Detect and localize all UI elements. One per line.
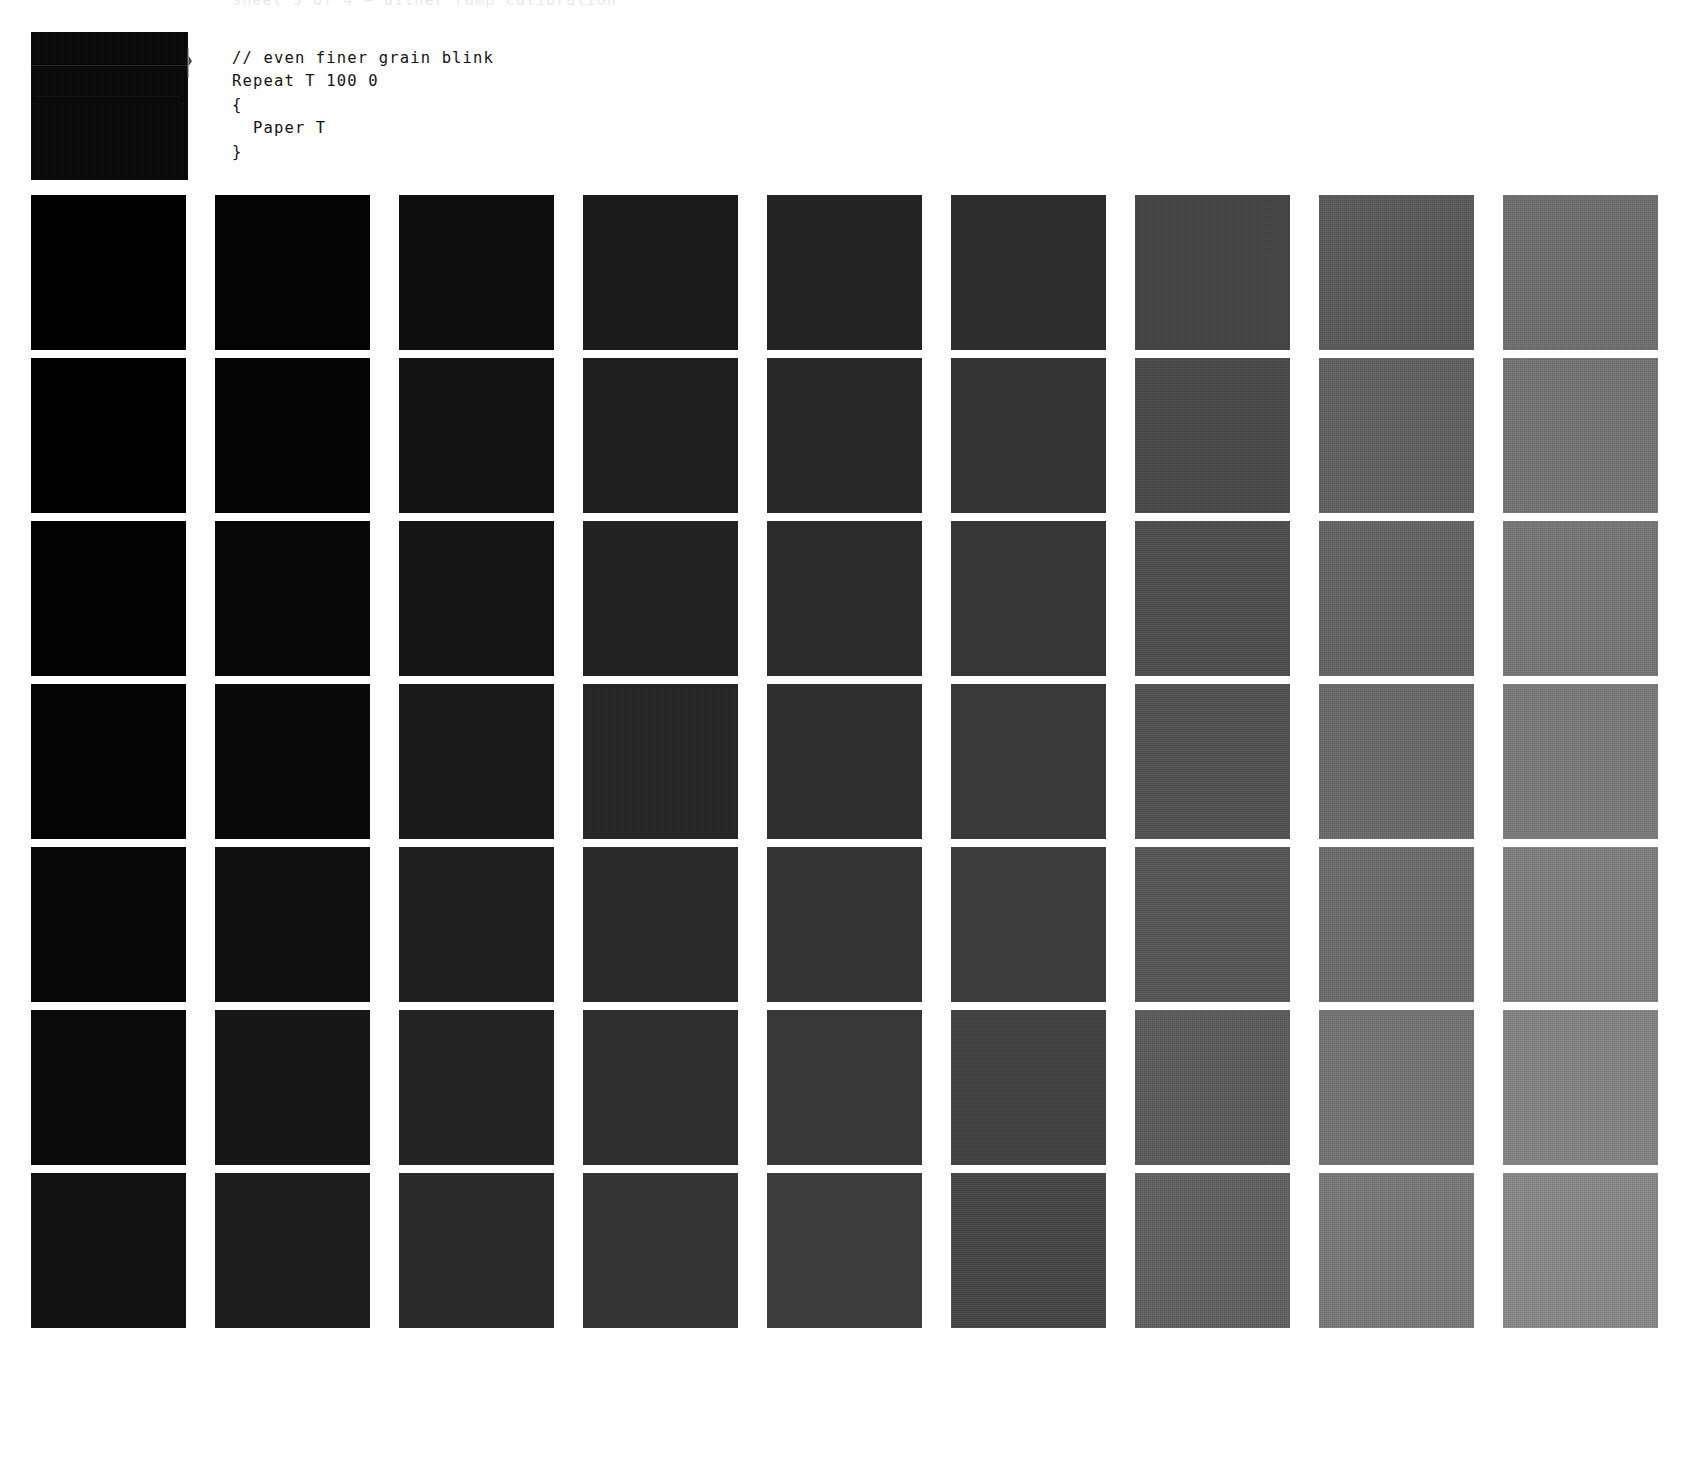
swatch-cell[interactable] <box>1319 195 1474 350</box>
swatch-cell[interactable] <box>1503 195 1658 350</box>
swatch-cell[interactable] <box>1503 358 1658 513</box>
render-preview[interactable] <box>31 32 188 180</box>
swatch-cell[interactable] <box>399 684 554 839</box>
swatch-cell[interactable] <box>767 684 922 839</box>
swatch-cell[interactable] <box>583 1010 738 1165</box>
swatch-cell[interactable] <box>399 847 554 1002</box>
swatch-cell[interactable] <box>399 1173 554 1328</box>
swatch-cell[interactable] <box>1135 358 1290 513</box>
swatch-cell[interactable] <box>767 195 922 350</box>
swatch-cell[interactable] <box>1503 684 1658 839</box>
swatch-cell[interactable] <box>31 358 186 513</box>
swatch-row <box>31 1010 1683 1173</box>
swatch-cell[interactable] <box>399 195 554 350</box>
swatch-cell[interactable] <box>1319 1010 1474 1165</box>
swatch-cell[interactable] <box>1319 521 1474 676</box>
swatch-cell[interactable] <box>951 521 1106 676</box>
swatch-cell[interactable] <box>1135 521 1290 676</box>
swatch-cell[interactable] <box>215 1173 370 1328</box>
swatch-cell[interactable] <box>31 1173 186 1328</box>
swatch-cell[interactable] <box>1135 1010 1290 1165</box>
swatch-cell[interactable] <box>1135 684 1290 839</box>
swatch-cell[interactable] <box>767 358 922 513</box>
swatch-cell[interactable] <box>215 521 370 676</box>
swatch-cell[interactable] <box>951 684 1106 839</box>
clipped-header-text: sheet 3 of 4 — dither ramp calibration <box>232 0 617 9</box>
swatch-cell[interactable] <box>1135 847 1290 1002</box>
swatch-cell[interactable] <box>767 521 922 676</box>
swatch-cell[interactable] <box>951 195 1106 350</box>
swatch-cell[interactable] <box>399 1010 554 1165</box>
swatch-cell[interactable] <box>951 1010 1106 1165</box>
swatch-row <box>31 521 1683 684</box>
swatch-cell[interactable] <box>215 847 370 1002</box>
swatch-cell[interactable] <box>215 358 370 513</box>
swatch-cell[interactable] <box>583 358 738 513</box>
swatch-cell[interactable] <box>1503 1173 1658 1328</box>
swatch-cell[interactable] <box>215 1010 370 1165</box>
code-line-comment: // even finer grain blink <box>232 47 494 71</box>
code-line-repeat: Repeat T 100 0 <box>232 70 494 94</box>
swatch-cell[interactable] <box>31 195 186 350</box>
swatch-cell[interactable] <box>31 521 186 676</box>
swatch-cell[interactable] <box>215 195 370 350</box>
code-line-paper: Paper T <box>232 117 494 141</box>
code-line-brace-close: } <box>232 141 494 165</box>
swatch-grid <box>31 195 1683 1336</box>
swatch-cell[interactable] <box>1319 684 1474 839</box>
swatch-row <box>31 847 1683 1010</box>
swatch-cell[interactable] <box>1319 358 1474 513</box>
swatch-cell[interactable] <box>31 1010 186 1165</box>
swatch-cell[interactable] <box>399 358 554 513</box>
code-line-brace-open: { <box>232 94 494 118</box>
render-preview-thumbnail[interactable] <box>31 32 188 180</box>
swatch-cell[interactable] <box>31 684 186 839</box>
swatch-row <box>31 684 1683 847</box>
swatch-cell[interactable] <box>399 521 554 676</box>
code-listing: // even finer grain blinkRepeat T 100 0{… <box>232 47 494 165</box>
swatch-cell[interactable] <box>767 1173 922 1328</box>
swatch-cell[interactable] <box>767 847 922 1002</box>
swatch-cell[interactable] <box>951 1173 1106 1328</box>
swatch-row <box>31 1173 1683 1336</box>
swatch-cell[interactable] <box>583 1173 738 1328</box>
swatch-cell[interactable] <box>1319 847 1474 1002</box>
swatch-cell[interactable] <box>1503 521 1658 676</box>
swatch-cell[interactable] <box>951 847 1106 1002</box>
swatch-cell[interactable] <box>583 195 738 350</box>
swatch-row <box>31 358 1683 521</box>
swatch-cell[interactable] <box>215 684 370 839</box>
swatch-cell[interactable] <box>31 847 186 1002</box>
swatch-cell[interactable] <box>1319 1173 1474 1328</box>
swatch-row <box>31 195 1683 358</box>
swatch-cell[interactable] <box>583 847 738 1002</box>
swatch-cell[interactable] <box>951 358 1106 513</box>
swatch-cell[interactable] <box>1503 847 1658 1002</box>
swatch-cell[interactable] <box>583 684 738 839</box>
swatch-cell[interactable] <box>1135 1173 1290 1328</box>
swatch-cell[interactable] <box>767 1010 922 1165</box>
swatch-cell[interactable] <box>1135 195 1290 350</box>
preview-artifact <box>35 96 180 97</box>
swatch-cell[interactable] <box>583 521 738 676</box>
preview-scanline <box>31 65 188 66</box>
swatch-cell[interactable] <box>1503 1010 1658 1165</box>
